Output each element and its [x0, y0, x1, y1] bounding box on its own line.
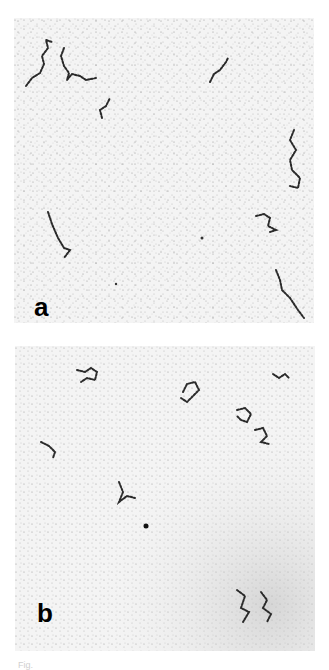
figure-caption-fragment: Fig.	[18, 660, 33, 670]
panel-label-a: a	[34, 294, 48, 320]
panel-label-b: b	[37, 600, 53, 626]
micrograph-panel-b: b	[15, 346, 315, 651]
speckle-background-a	[14, 18, 314, 323]
speckle-background-b	[15, 346, 315, 651]
micrograph-panel-a: a	[14, 18, 314, 323]
